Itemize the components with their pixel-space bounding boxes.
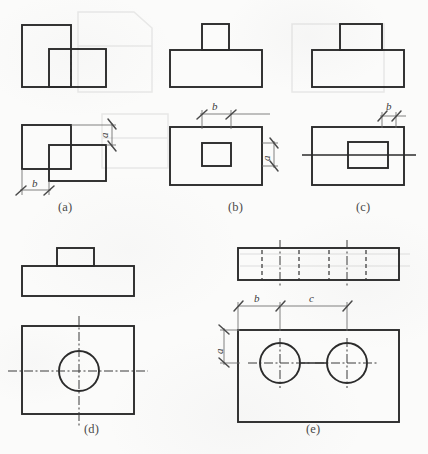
figure-b-front-view: [170, 24, 262, 87]
figure-a-front-view: [22, 25, 106, 87]
figure-d: [0, 230, 214, 454]
dimension-b-horizontal: b: [378, 100, 406, 128]
figure-e-top-view: [238, 330, 399, 422]
dimension-label-a: a: [213, 348, 225, 354]
caption-a: (a): [58, 200, 72, 215]
figure-e-front-view: [238, 240, 399, 288]
figure-c-top-view: [302, 127, 416, 185]
caption-b: (b): [228, 200, 243, 215]
dimension-a-vertical: a: [213, 325, 240, 367]
dimension-label-b: b: [212, 100, 218, 112]
figure-a-top-view: [22, 125, 106, 181]
dimension-label-a: a: [98, 132, 110, 138]
dimension-b-horizontal: b: [197, 100, 270, 129]
figure-d-top-view: [8, 316, 148, 426]
dimension-label-c: c: [309, 292, 314, 304]
caption-d: (d): [84, 422, 99, 437]
figure-d-front-view: [22, 248, 134, 296]
dimension-label-b: b: [254, 292, 260, 304]
dimension-label-a: a: [260, 155, 272, 161]
figure-b: b a: [160, 0, 290, 220]
figure-c-front-view: [312, 24, 404, 87]
caption-e: (e): [306, 422, 320, 437]
dimension-a-vertical: a: [71, 119, 116, 151]
drawing-page: a b (a) b: [0, 0, 428, 454]
dimension-label-b: b: [32, 177, 38, 189]
dimension-c-horizontal: c: [280, 292, 352, 331]
caption-c: (c): [356, 200, 370, 215]
figure-c: b: [300, 0, 428, 220]
dimension-label-b: b: [386, 100, 392, 112]
figure-b-top-view: [170, 127, 262, 185]
figure-e: a b c: [215, 230, 428, 454]
dimension-b-horizontal: b: [234, 292, 285, 331]
